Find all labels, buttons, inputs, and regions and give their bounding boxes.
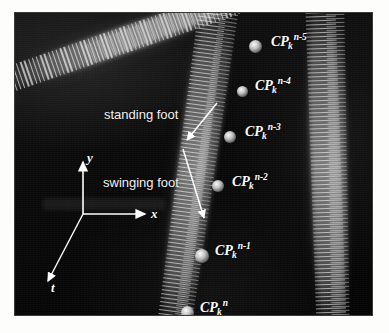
cp-subscript: k (249, 181, 254, 191)
cp-base: CP (255, 78, 273, 93)
contact-point-label: CPkn (200, 301, 228, 315)
sensor-noise-overlay (15, 13, 372, 315)
axis-label-y: y (87, 151, 93, 164)
cp-subscript: k (217, 307, 222, 315)
cp-superscript: n-5 (294, 32, 307, 42)
contact-point-label: CPkn-3 (245, 125, 281, 139)
contact-point-label: CPkn-4 (255, 79, 291, 93)
contact-point-marker (181, 306, 194, 316)
cp-base: CP (245, 124, 263, 139)
contact-point-marker (195, 249, 209, 263)
figure-root: CPkn-5CPkn-4CPkn-3CPkn-2CPkn-1CPkn stand… (0, 0, 389, 333)
visualization-plate: CPkn-5CPkn-4CPkn-3CPkn-2CPkn-1CPkn stand… (15, 13, 372, 315)
axis-label-t: t (51, 281, 55, 294)
standing-foot-label: standing foot (104, 108, 178, 121)
contact-point-marker (224, 131, 236, 143)
cp-base: CP (215, 243, 233, 258)
cp-superscript: n-4 (278, 76, 291, 86)
contact-point-label: CPkn-1 (215, 244, 251, 258)
cp-superscript: n-1 (238, 241, 251, 251)
cp-subscript: k (288, 41, 293, 51)
axis-label-x: x (151, 207, 158, 220)
contact-point-marker (212, 180, 224, 192)
swinging-foot-label: swinging foot (103, 176, 179, 189)
contact-point-marker (249, 40, 262, 53)
contact-point-marker (237, 86, 248, 97)
cp-base: CP (232, 174, 250, 189)
cp-base: CP (271, 34, 289, 49)
cp-subscript: k (272, 85, 277, 95)
cp-subscript: k (262, 131, 267, 141)
cp-superscript: n-2 (255, 172, 268, 182)
contact-point-label: CPkn-5 (271, 35, 307, 49)
cp-superscript: n-3 (268, 122, 281, 132)
cp-superscript: n (223, 298, 228, 308)
contact-point-label: CPkn-2 (232, 175, 268, 189)
cp-subscript: k (232, 250, 237, 260)
cp-base: CP (200, 300, 218, 315)
